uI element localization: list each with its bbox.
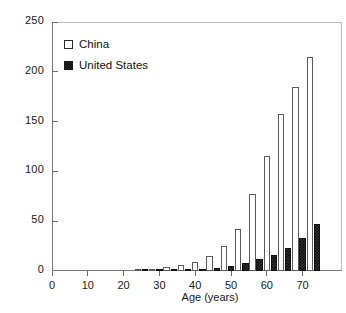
bar-china bbox=[135, 269, 141, 271]
bar-china bbox=[292, 87, 298, 271]
bar-china bbox=[278, 114, 284, 271]
bar-china bbox=[235, 229, 241, 271]
bar-china bbox=[192, 262, 198, 271]
bar-united-states bbox=[228, 266, 234, 271]
bar-china bbox=[249, 194, 255, 271]
bar-china bbox=[163, 267, 169, 271]
bar-united-states bbox=[285, 248, 291, 271]
bar-united-states bbox=[156, 269, 162, 271]
bar-chart: 050100150200250 010203040506070 Age (yea… bbox=[0, 0, 346, 313]
bar-united-states bbox=[199, 269, 205, 271]
bar-china bbox=[149, 269, 155, 271]
bar-united-states bbox=[214, 268, 220, 271]
bar-united-states bbox=[256, 259, 262, 271]
bar-united-states bbox=[314, 224, 320, 271]
bar-united-states bbox=[185, 269, 191, 271]
bar-united-states bbox=[242, 263, 248, 271]
bar-united-states bbox=[271, 255, 277, 271]
bar-united-states bbox=[299, 238, 305, 271]
bar-china bbox=[221, 246, 227, 271]
bar-united-states bbox=[142, 269, 148, 271]
bar-china bbox=[178, 265, 184, 271]
bar-china bbox=[264, 156, 270, 271]
bar-china bbox=[206, 256, 212, 271]
bar-china bbox=[307, 57, 313, 271]
bar-united-states bbox=[171, 269, 177, 271]
bar-series-layer bbox=[0, 0, 346, 313]
